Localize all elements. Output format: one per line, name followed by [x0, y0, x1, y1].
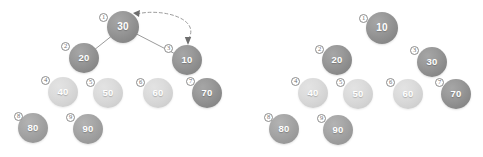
- node-40[interactable]: 40: [298, 78, 328, 108]
- node-index-badge-7: 7: [435, 78, 444, 87]
- node-index-badge-8: 8: [264, 113, 273, 122]
- diagram-canvas: 3012021034045056067078089091012023034045…: [0, 0, 483, 157]
- node-value-label: 90: [333, 125, 344, 135]
- node-value-label: 20: [332, 55, 343, 65]
- node-index-badge-5: 5: [336, 78, 345, 87]
- node-60[interactable]: 60: [393, 79, 423, 109]
- node-index-badge-2: 2: [315, 45, 324, 54]
- node-index-badge-4: 4: [291, 77, 300, 86]
- panel-after-swap: 101202303404505606707808909: [0, 0, 483, 157]
- node-index-badge-1: 1: [359, 14, 368, 23]
- node-value-label: 80: [279, 124, 290, 134]
- node-50[interactable]: 50: [343, 79, 373, 109]
- node-value-label: 40: [308, 88, 319, 98]
- node-value-label: 70: [451, 89, 462, 99]
- node-80[interactable]: 80: [269, 114, 299, 144]
- node-value-label: 30: [427, 57, 438, 67]
- node-90[interactable]: 90: [323, 115, 353, 145]
- node-index-badge-3: 3: [410, 46, 419, 55]
- node-value-label: 60: [403, 89, 414, 99]
- node-value-label: 10: [376, 23, 388, 33]
- node-30[interactable]: 30: [417, 47, 447, 77]
- node-10[interactable]: 10: [366, 12, 398, 44]
- node-70[interactable]: 70: [441, 79, 471, 109]
- node-index-badge-6: 6: [386, 78, 395, 87]
- node-index-badge-9: 9: [317, 114, 326, 123]
- node-20[interactable]: 20: [322, 45, 352, 75]
- node-value-label: 50: [353, 89, 364, 99]
